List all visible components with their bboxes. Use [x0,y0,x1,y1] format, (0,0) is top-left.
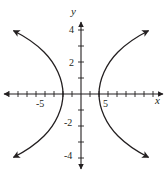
curve-left-upper-half [14,31,63,94]
y-tick-label-pos4: 4 [69,25,74,35]
coordinate-plane-svg [0,0,167,173]
x-axis-group [4,91,163,97]
y-tick-label-neg4: -4 [64,151,72,161]
y-axis-title: y [71,6,76,17]
y-tick-label-neg2: -2 [64,118,72,128]
y-axis-group [78,22,84,169]
x-axis-title: x [155,95,160,106]
x-tick-label-neg5: -5 [36,99,44,109]
curve-right-upper-half [99,31,148,94]
x-tick-label-pos5: 5 [103,99,108,109]
y-tick-label-pos2: 2 [69,58,74,68]
graph-figure: y x -5 5 4 2 -2 -4 [0,0,167,173]
